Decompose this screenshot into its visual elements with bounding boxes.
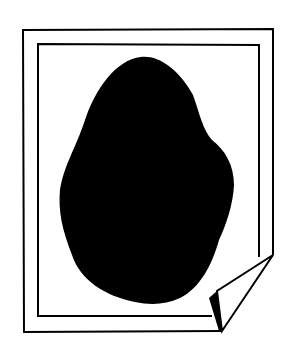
photo-illustration	[0, 0, 289, 345]
